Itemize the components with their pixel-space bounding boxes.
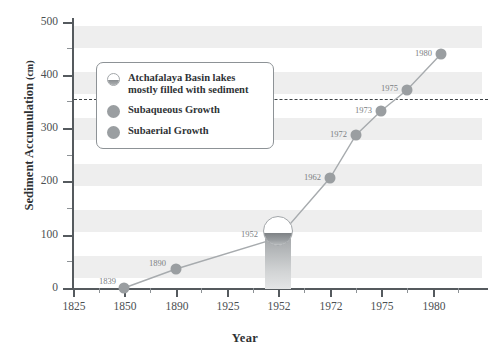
- data-point-label: 1890: [149, 258, 170, 268]
- legend-item-label: Subaqueous Growth: [128, 104, 220, 116]
- half-filled-circle-icon: [107, 73, 120, 86]
- filled-circle-icon: [107, 126, 120, 139]
- data-point: [436, 49, 447, 60]
- data-point: [402, 85, 413, 96]
- data-point: [325, 173, 336, 184]
- data-point-label: 1975: [381, 83, 402, 93]
- data-point-label: 1972: [330, 129, 351, 139]
- data-point-label: 1952: [241, 229, 262, 239]
- legend: Atchafalaya Basin lakes mostly filled wi…: [96, 62, 274, 149]
- legend-item-subaqueous-growth: Subaqueous Growth: [107, 104, 263, 118]
- data-point: [376, 106, 387, 117]
- data-point-label: 1980: [415, 48, 436, 58]
- sediment-fill: [264, 233, 292, 245]
- y-axis-title: Sediment Accumulation (cm): [22, 11, 37, 261]
- data-point: [351, 130, 362, 141]
- y-axis-title-unit: (cm): [24, 61, 35, 80]
- half-filled-circle-icon: [263, 216, 293, 246]
- chart-container: 500 400 300 200 100 0 1825 1850 1890 192…: [0, 0, 490, 359]
- legend-item-lakes-filled: Atchafalaya Basin lakes mostly filled wi…: [107, 72, 263, 97]
- data-point: [171, 264, 182, 275]
- legend-item-label: Atchafalaya Basin lakes mostly filled wi…: [128, 72, 263, 97]
- legend-item-subaerial-growth: Subaerial Growth: [107, 125, 263, 139]
- legend-item-label: Subaerial Growth: [128, 125, 209, 137]
- filled-circle-icon: [107, 105, 120, 118]
- data-point-label: 1973: [355, 105, 376, 115]
- data-point-label: 1962: [304, 172, 325, 182]
- y-axis-title-text: Sediment Accumulation: [22, 83, 36, 210]
- data-point: [119, 283, 130, 294]
- data-point-label: 1839: [99, 276, 120, 286]
- x-axis-title: Year: [0, 331, 490, 346]
